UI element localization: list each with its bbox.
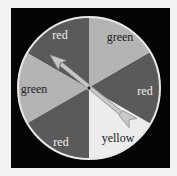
sector-label-green-left: green: [21, 83, 48, 95]
sector-label-red-right: red: [137, 85, 152, 97]
sector-label-yellow: yellow: [102, 132, 135, 144]
sector-label-red-bottom: red: [53, 136, 68, 148]
sector-label-green-top: green: [107, 31, 134, 43]
pivot-pin-icon: [87, 86, 91, 90]
sector-label-red-top: red: [52, 29, 67, 41]
